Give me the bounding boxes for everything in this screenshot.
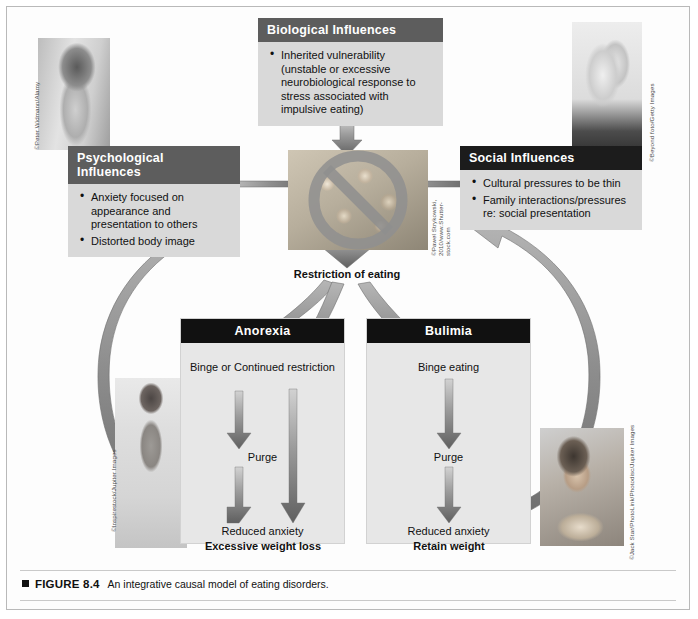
anorexia-outcome-label: Excessive weight loss <box>173 540 353 552</box>
figure-caption: FIGURE 8.4 An integrative causal model o… <box>22 578 329 590</box>
disorder-anorexia-body: Binge or Continued restriction Purge Red… <box>181 343 344 543</box>
photo-top-right <box>572 22 642 162</box>
panel-social-body: Cultural pressures to be thin Family int… <box>460 170 642 230</box>
anorexia-inner-arrows <box>181 343 346 543</box>
panel-social-title: Social Influences <box>460 146 642 170</box>
panel-psychological-title: Psychological Influences <box>68 146 240 184</box>
photo-credit-center: ©Pawel Strykowski, 2010/www.Shutter-stoc… <box>430 194 451 256</box>
photo-credit-top-right: ©Beyond foto/Getty Images <box>648 83 655 162</box>
photo-credit-bottom-left: ©Inspirestock/Jupiter Images <box>110 449 117 532</box>
panel-biological: Biological Influences Inherited vulnerab… <box>258 18 443 126</box>
disorder-bulimia-title: Bulimia <box>367 319 530 343</box>
panel-social-bullet-0: Cultural pressures to be thin <box>483 177 632 191</box>
photo-credit-top-left: ©Peter Widmann/Alamy <box>33 82 40 150</box>
disorder-column-bulimia: Bulimia Binge eating Purge Reduced anxie… <box>366 318 531 544</box>
square-marker-icon <box>22 580 29 587</box>
bulimia-outcome-label: Retain weight <box>359 540 539 552</box>
figure-page: ©Peter Widmann/Alamy ©Beyond foto/Getty … <box>0 0 698 619</box>
photo-top-left <box>38 38 110 150</box>
disorder-column-anorexia: Anorexia Binge or Continued restriction … <box>180 318 345 544</box>
panel-social-bullet-1: Family interactions/pressures re: social… <box>483 194 632 221</box>
bulimia-inner-arrows <box>367 343 532 543</box>
panel-biological-body: Inherited vulnerability (unstable or exc… <box>258 42 443 126</box>
panel-psychological-bullet-1: Distorted body image <box>91 235 230 249</box>
panel-psychological-body: Anxiety focused on appearance and presen… <box>68 184 240 257</box>
photo-bottom-right <box>540 428 624 546</box>
panel-biological-bullet-0: Inherited vulnerability (unstable or exc… <box>281 49 433 117</box>
prohibition-overlay <box>288 150 428 250</box>
panel-social: Social Influences Cultural pressures to … <box>460 146 642 230</box>
restriction-of-eating-label: Restriction of eating <box>276 268 418 280</box>
panel-psychological: Psychological Influences Anxiety focused… <box>68 146 240 257</box>
photo-credit-bottom-right: ©Jack Star/PhotoLink/Photodisc/Jupiter I… <box>628 425 635 560</box>
photo-top-right-image <box>572 22 642 162</box>
figure-caption-text: An integrative causal model of eating di… <box>108 578 329 590</box>
photo-bottom-left <box>115 378 187 548</box>
photo-bottom-left-image <box>115 378 187 548</box>
caption-rule-top <box>20 570 676 571</box>
caption-rule-bottom <box>20 600 676 601</box>
photo-bottom-right-image <box>540 428 624 546</box>
panel-psychological-bullet-0: Anxiety focused on appearance and presen… <box>91 191 230 232</box>
panel-biological-title: Biological Influences <box>258 18 443 42</box>
disorder-bulimia-body: Binge eating Purge Reduced anxiety <box>367 343 530 543</box>
photo-top-left-image <box>38 38 110 150</box>
disorder-anorexia-title: Anorexia <box>181 319 344 343</box>
figure-number: FIGURE 8.4 <box>35 578 100 590</box>
